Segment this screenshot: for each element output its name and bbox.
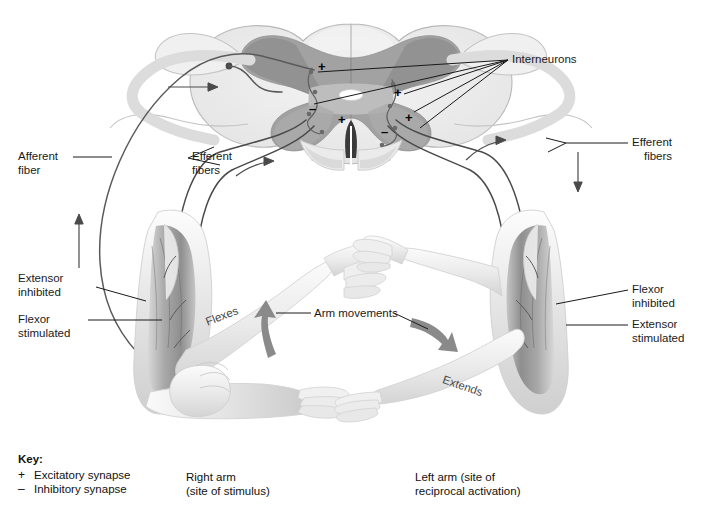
label-interneurons: Interneurons: [512, 53, 577, 67]
synapse-sign-right-horn-mid: +: [405, 111, 413, 124]
left-hand-upper: [353, 236, 408, 272]
left-upper-forearm: [398, 248, 502, 296]
label-arm-movements: Arm movements: [314, 307, 398, 321]
extension-arrow: [410, 318, 458, 352]
efferent-direction-arrow-right: [574, 152, 582, 192]
leader-efferent-right-c: [546, 138, 566, 143]
inhibitory-symbol: –: [18, 482, 34, 496]
synapse-sign-left-horn-lower: +: [338, 113, 346, 126]
excitatory-symbol: +: [18, 468, 34, 482]
key-legend: Key: + Excitatory synapse – Inhibitory s…: [18, 452, 131, 496]
caption-right-arm: Right arm (site of stimulus): [186, 470, 270, 498]
central-canal: [339, 90, 363, 101]
excitatory-label: Excitatory synapse: [34, 468, 131, 482]
synapse-sign-left-horn-upper: +: [318, 60, 326, 73]
label-extensor-stimulated: Extensor stimulated: [632, 318, 684, 345]
label-afferent-fiber: Afferent fiber: [18, 150, 58, 177]
label-extensor-inhibited: Extensor inhibited: [18, 272, 63, 299]
label-flexor-inhibited: Flexor inhibited: [632, 283, 675, 310]
key-title: Key:: [18, 452, 131, 466]
afferent-direction-arrow-left: [75, 214, 83, 268]
leader-flexor-inhibited: [556, 290, 628, 304]
inhibitory-label: Inhibitory synapse: [34, 482, 127, 496]
synapse-sign-left-horn-middle: –: [309, 102, 316, 115]
spinal-cord-cross-section: [190, 24, 512, 170]
crossed-extensor-reflex-figure: [0, 0, 703, 518]
key-item-excitatory: + Excitatory synapse: [18, 468, 131, 482]
label-efferent-fibers-right: Efferent fibers: [632, 136, 672, 163]
label-efferent-fibers-left: Efferent fibers: [192, 150, 232, 177]
efferent-fiber-right-2: [388, 126, 506, 362]
label-flexor-stimulated: Flexor stimulated: [18, 313, 70, 340]
synapse-sign-right-horn-lower: –: [381, 125, 388, 138]
synapse-sign-right-horn-upper: +: [394, 86, 402, 99]
caption-left-arm: Left arm (site of reciprocal activation): [415, 470, 520, 498]
leader-efferent-right-b: [548, 143, 566, 152]
key-item-inhibitory: – Inhibitory synapse: [18, 482, 131, 496]
